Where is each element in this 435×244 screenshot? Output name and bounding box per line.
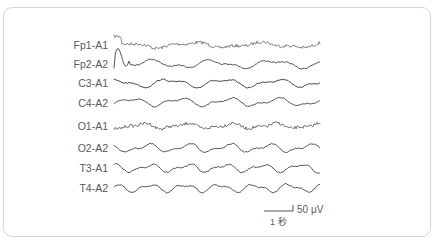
- trace-fp1-a1: [114, 35, 320, 50]
- trace-t4-a2: [114, 184, 320, 194]
- trace-t3-a1: [114, 163, 320, 173]
- eeg-traces: [0, 0, 435, 244]
- trace-o1-a1: [114, 121, 320, 130]
- trace-o2-a2: [114, 143, 320, 152]
- scale-bar: [264, 205, 293, 211]
- trace-fp2-a2: [114, 49, 320, 69]
- trace-c4-a2: [114, 97, 320, 107]
- amplitude-scale-label: 50 μV: [297, 204, 323, 215]
- time-scale-label: 1 秒: [270, 215, 287, 228]
- trace-c3-a1: [114, 79, 320, 88]
